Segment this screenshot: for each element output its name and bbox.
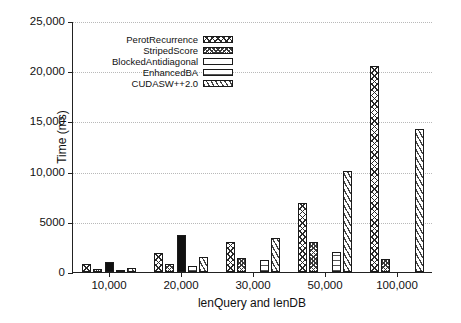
bar <box>82 264 91 272</box>
bar <box>237 258 246 272</box>
bar-group <box>361 22 433 272</box>
bar-chart: Time (ms) 0500010,00015,00020,00025,000 … <box>0 0 461 323</box>
bar <box>154 253 163 272</box>
legend-entry: BlockedAntidiagonal <box>112 57 233 67</box>
legend-label: EnhancedBA <box>143 68 198 78</box>
bar <box>105 262 114 272</box>
x-tick-mark <box>325 272 326 277</box>
legend-swatch <box>203 58 233 65</box>
bar <box>370 66 379 272</box>
bar <box>116 270 125 272</box>
bar <box>343 171 352 272</box>
bar <box>177 235 186 272</box>
bar <box>298 203 307 272</box>
bar <box>260 260 269 272</box>
bar <box>199 257 208 272</box>
bar <box>332 252 341 272</box>
bar <box>165 264 174 272</box>
legend-entry: CUDASW++2.0 <box>112 79 233 89</box>
legend-swatch <box>203 47 233 54</box>
bar <box>226 242 235 272</box>
legend-swatch <box>203 36 233 43</box>
x-axis-title: lenQuery and lenDB <box>72 296 432 310</box>
legend-swatch <box>203 69 233 76</box>
legend-entry: StripedScore <box>112 46 233 56</box>
bar <box>309 242 318 272</box>
y-tick-label: 10,000 <box>30 167 65 179</box>
bar <box>271 238 280 272</box>
bar <box>127 268 136 272</box>
x-tick-mark <box>181 272 182 277</box>
y-tick-label: 0 <box>59 267 65 279</box>
legend-entry: EnhancedBA <box>112 68 233 78</box>
y-tick-label: 25,000 <box>30 16 65 28</box>
bar <box>381 259 390 272</box>
legend-entry: PerotRecurrence <box>112 35 233 45</box>
y-axis-title: Time (ms) <box>55 67 69 207</box>
legend-label: PerotRecurrence <box>126 35 198 45</box>
x-tick-label: 50,000 <box>307 279 342 291</box>
legend-label: CUDASW++2.0 <box>132 79 199 89</box>
legend-swatch <box>203 80 233 87</box>
x-tick-mark <box>253 272 254 277</box>
x-tick-label: 30,000 <box>235 279 270 291</box>
bar <box>93 269 102 272</box>
x-tick-label: 20,000 <box>163 279 198 291</box>
x-tick-mark <box>397 272 398 277</box>
legend-label: StripedScore <box>143 46 198 56</box>
legend-label: BlockedAntidiagonal <box>112 57 198 67</box>
x-tick-label: 100,000 <box>376 279 418 291</box>
y-tick-label: 5000 <box>39 217 65 229</box>
x-tick-mark <box>109 272 110 277</box>
bar-group <box>289 22 361 272</box>
bar <box>415 129 424 272</box>
y-tick-label: 20,000 <box>30 66 65 78</box>
y-tick-label: 15,000 <box>30 117 65 129</box>
y-tick-mark <box>68 273 73 274</box>
bar <box>188 266 197 272</box>
x-tick-label: 10,000 <box>91 279 126 291</box>
chart-legend: PerotRecurrenceStripedScoreBlockedAntidi… <box>112 35 233 90</box>
